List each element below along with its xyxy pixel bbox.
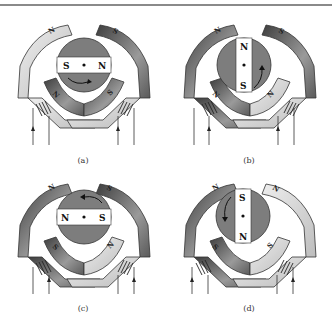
panel-d: S N N N S S (d)	[166, 167, 332, 327]
stepper-motor-diagram-d: S N N N S S	[166, 167, 332, 317]
caption-a: (a)	[0, 156, 166, 165]
rotor-bottom-label: N	[239, 232, 247, 242]
rotor-shaft	[241, 214, 244, 217]
rotor-shaft	[242, 63, 245, 66]
caption-c: (c)	[0, 304, 166, 313]
rotor-shaft	[82, 215, 85, 218]
rotor-shaft	[82, 63, 85, 66]
current-arrow-icon	[31, 126, 35, 131]
caption-b: (b)	[166, 156, 332, 165]
current-arrow-icon	[207, 126, 211, 131]
panel-c: N S N S S N (c)	[0, 167, 166, 327]
rotor-left-label: S	[63, 61, 70, 71]
panel-a: S N N S N S (a)	[0, 8, 166, 168]
current-arrow-icon	[132, 277, 136, 282]
current-arrow-icon	[291, 277, 295, 282]
panel-b: N S N S N N (b)	[166, 8, 332, 168]
rotor-right-label: S	[99, 213, 106, 223]
stepper-motor-diagram-b: N S N S N N	[166, 8, 332, 158]
caption-d: (d)	[166, 304, 332, 313]
current-arrow-icon	[190, 277, 194, 282]
stepper-motor-diagram-c: N S N S S N	[0, 167, 166, 317]
top-rule	[0, 4, 332, 6]
rotor-top-label: S	[239, 193, 246, 203]
rotor-right-label: N	[98, 61, 106, 71]
current-arrow-icon	[116, 126, 120, 131]
current-arrow-icon	[276, 126, 280, 131]
rotor-bottom-label: S	[240, 81, 247, 91]
rotor-left-label: N	[61, 213, 69, 223]
rotor-top-label: N	[240, 42, 248, 52]
stepper-motor-diagram-a: S N N S N S	[0, 8, 166, 158]
